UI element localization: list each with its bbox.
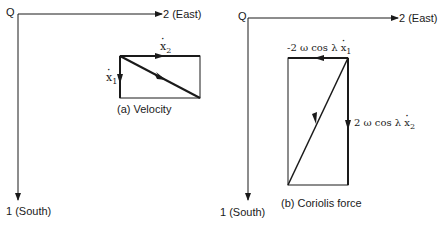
velocity-rectangle — [117, 53, 200, 98]
coriolis-rectangle — [288, 55, 351, 185]
caption-velocity: (a) Velocity — [117, 104, 171, 115]
east-label-b: 2 (East) — [399, 13, 438, 24]
caption-coriolis: (b) Coriolis force — [281, 198, 362, 209]
resultant-coriolis — [288, 58, 348, 185]
origin-label-a: Q — [6, 7, 15, 18]
x2-dot-label: x2 — [160, 41, 171, 52]
diagram-canvas — [0, 0, 444, 228]
top-force-label: -2 ω cos λ x1 — [287, 43, 351, 53]
east-label-a: 2 (East) — [163, 9, 202, 20]
south-label-a: 1 (South) — [6, 206, 51, 217]
south-label-b: 1 (South) — [220, 207, 265, 218]
x1-dot-label: x1 — [106, 72, 117, 83]
right-force-label: 2 ω cos λ x2 — [354, 118, 415, 128]
origin-label-b: Q — [238, 11, 247, 22]
